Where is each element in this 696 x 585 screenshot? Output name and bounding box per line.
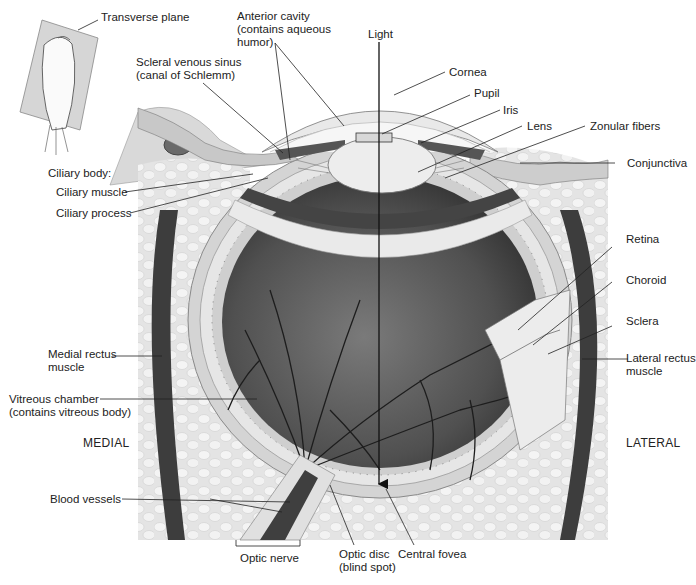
- label-cornea: Cornea: [449, 66, 487, 79]
- label-ciliary-process: Ciliary process: [56, 207, 131, 220]
- label-central-fovea: Central fovea: [398, 548, 466, 561]
- transverse-plane-inset: [20, 20, 98, 155]
- eyeball: [188, 142, 572, 498]
- label-lateral-rectus-muscle: Lateral rectus muscle: [626, 352, 696, 378]
- label-sclera: Sclera: [626, 315, 659, 328]
- label-anterior-cavity: Anterior cavity (contains aqueous humor): [237, 10, 331, 49]
- label-pupil: Pupil: [474, 87, 500, 100]
- label-choroid: Choroid: [626, 274, 666, 287]
- label-ciliary-body: Ciliary body:: [48, 167, 111, 180]
- lens: [328, 137, 436, 193]
- label-optic-disc: Optic disc (blind spot): [339, 548, 396, 574]
- label-vitreous-chamber: Vitreous chamber (contains vitreous body…: [9, 393, 131, 419]
- label-ciliary-muscle: Ciliary muscle: [56, 186, 128, 199]
- label-retina: Retina: [626, 233, 659, 246]
- label-conjunctiva: Conjunctiva: [627, 157, 687, 170]
- label-transverse-plane: Transverse plane: [101, 11, 189, 23]
- label-zonular-fibers: Zonular fibers: [590, 120, 660, 133]
- label-lateral: LATERAL: [626, 437, 681, 450]
- label-light: Light: [368, 28, 393, 41]
- label-lens: Lens: [527, 120, 552, 133]
- label-optic-nerve: Optic nerve: [240, 552, 299, 565]
- label-medial-rectus-muscle: Medial rectus muscle: [48, 348, 116, 374]
- label-medial: MEDIAL: [83, 437, 129, 450]
- label-iris: Iris: [503, 104, 518, 117]
- label-blood-vessels: Blood vessels: [50, 493, 121, 506]
- label-scleral-venous-sinus: Scleral venous sinus (canal of Schlemm): [136, 56, 241, 82]
